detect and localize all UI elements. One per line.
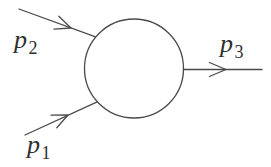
diagram-canvas: p 2 p 1 p 3 — [0, 0, 271, 167]
label-p1-subscript: 1 — [42, 143, 51, 163]
label-p3-subscript: 3 — [235, 42, 244, 62]
incoming-line-p2 — [19, 9, 96, 37]
label-p3-symbol: p — [218, 29, 233, 58]
feynman-blob-diagram: p 2 p 1 p 3 — [0, 0, 271, 167]
diagram-labels: p 2 p 1 p 3 — [12, 25, 244, 163]
label-p2-symbol: p — [12, 25, 27, 54]
label-p2-subscript: 2 — [29, 38, 38, 58]
interaction-blob — [85, 19, 184, 118]
diagram-strokes — [19, 9, 262, 135]
label-p1-symbol: p — [25, 130, 40, 159]
